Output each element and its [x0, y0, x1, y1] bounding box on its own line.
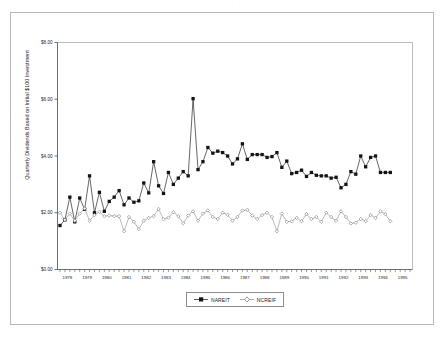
series-nareit [58, 97, 392, 227]
chart-page: · · · · · · $0.00$2.00$4.00$6.00$8.00197… [0, 0, 445, 338]
x-tick-label: 1986 [220, 275, 230, 280]
x-tick-label: 1995 [398, 275, 408, 280]
x-tick-label: 1982 [141, 275, 151, 280]
legend-label-nareit: NAREIT [211, 297, 230, 303]
legend-item-ncreif[interactable]: NCREIF [240, 296, 276, 303]
x-tick-label: 1980 [102, 275, 112, 280]
x-tick-label: 1989 [279, 275, 289, 280]
x-tick-label: 1981 [122, 275, 132, 280]
x-tick-label: 1983 [161, 275, 171, 280]
x-tick-label: 1988 [260, 275, 270, 280]
line-chart: $0.00$2.00$4.00$6.00$8.00197819791980198… [0, 0, 445, 338]
open-diamond-icon [240, 296, 254, 303]
y-tick-label: $4.00 [41, 154, 53, 159]
x-tick-label: 1993 [358, 275, 368, 280]
x-tick-label: 1990 [299, 275, 309, 280]
y-tick-label: $2.00 [41, 210, 53, 215]
x-tick-label: 1985 [201, 275, 211, 280]
x-tick-label: 1978 [62, 275, 72, 280]
x-tick-label: 1991 [319, 275, 329, 280]
y-tick-label: $8.00 [41, 40, 53, 45]
x-tick-label: 1984 [181, 275, 191, 280]
chart-series [58, 97, 392, 233]
chart-plot-container: $0.00$2.00$4.00$6.00$8.00197819791980198… [0, 0, 445, 338]
legend-label-ncreif: NCREIF [257, 297, 276, 303]
chart-axes: $0.00$2.00$4.00$6.00$8.00197819791980198… [41, 40, 413, 280]
x-tick-label: 1992 [339, 275, 349, 280]
x-tick-label: 1994 [378, 275, 388, 280]
x-tick-label: 1979 [82, 275, 92, 280]
y-tick-label: $0.00 [41, 267, 53, 272]
y-axis-title: Quarterly Dividends Based on Initial $10… [24, 25, 30, 205]
series-ncreif [58, 207, 392, 233]
legend-item-nareit[interactable]: NAREIT [194, 296, 230, 303]
x-tick-label: 1987 [240, 275, 250, 280]
filled-square-icon [194, 296, 208, 303]
chart-legend: NAREIT NCREIF [186, 292, 284, 307]
y-tick-label: $6.00 [41, 97, 53, 102]
